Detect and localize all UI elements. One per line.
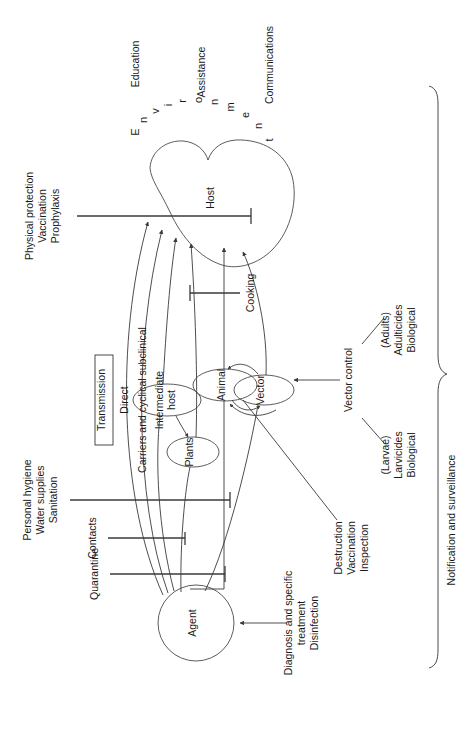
- label-host-protection: Physical protection Vaccination Prophyla…: [23, 172, 61, 260]
- env-letter-6: n: [208, 99, 220, 105]
- label-communications: Communications: [263, 26, 275, 104]
- path-intermediate-host-upper: [163, 238, 176, 384]
- larvae-line-1: Larvicides: [392, 431, 404, 478]
- env-letter-8: e: [239, 112, 251, 118]
- label-quarantine: Quarantine: [88, 548, 100, 600]
- adults-line-1: Adulticides: [392, 305, 404, 356]
- label-surveillance: Notification and surveillance: [445, 454, 457, 585]
- env-letter-3: i: [162, 104, 174, 106]
- bar-cooking: [190, 285, 240, 301]
- bar-contacts: [108, 532, 185, 545]
- env-letter-4: r: [176, 99, 188, 103]
- label-cooking: Cooking: [244, 274, 256, 313]
- node-animal-label: Animal: [215, 369, 227, 401]
- node-plants: Plants: [167, 437, 219, 467]
- label-route-direct: Direct: [118, 386, 130, 414]
- host-protection-line-2: Prophylaxis: [49, 189, 61, 243]
- path-plants-lower: [181, 467, 190, 592]
- animal-control-leader: [243, 400, 337, 520]
- bar-quarantine: [110, 566, 225, 582]
- label-vector-control: Vector control: [342, 348, 354, 412]
- label-sanitation: Personal hygiene Water supplies Sanitati…: [21, 459, 59, 540]
- node-host-label: Host: [204, 187, 216, 209]
- adults-line-2: Biological: [405, 308, 417, 353]
- animal-control-line-2: Inspection: [358, 524, 370, 572]
- label-agent-treatment: Diagnosis and specific treatment Disinfe…: [282, 571, 320, 675]
- label-route-carriers: Carriers and cyclical subclinical: [136, 327, 148, 473]
- path-vector-lower: [205, 405, 258, 591]
- animal-control-line-1: Vaccination: [345, 521, 357, 575]
- animal-control-line-0: Destruction: [332, 521, 344, 574]
- adults-line-0: (Adults): [379, 312, 391, 348]
- chain-of-infection-diagram: Host E n v i r o n m e n t Agent Interme…: [0, 0, 469, 748]
- node-plants-label: Plants: [183, 437, 195, 466]
- bar-host-protection: [77, 208, 251, 224]
- node-agent-label: Agent: [186, 609, 198, 637]
- env-letter-2: v: [149, 108, 161, 114]
- bar-sanitation: [70, 492, 230, 508]
- path-vector-upper: [243, 252, 266, 375]
- larvae-line-2: Biological: [405, 433, 417, 478]
- host-protection-line-1: Vaccination: [36, 189, 48, 243]
- agent-treatment-line-2: Disinfection: [308, 596, 320, 650]
- intermediate-to-plants-arrow: [176, 416, 188, 437]
- label-education: Education: [129, 40, 141, 87]
- larvae-line-0: (Larvae): [379, 435, 391, 474]
- env-letter-10: t: [263, 138, 275, 141]
- node-agent: Agent: [158, 585, 234, 661]
- path-animal-lower: [190, 401, 224, 589]
- sanitation-line-1: Water supplies: [34, 465, 46, 534]
- host-protection-line-0: Physical protection: [23, 172, 35, 260]
- agent-treatment-line-1: treatment: [295, 601, 307, 645]
- label-vector-adults: (Adults) Adulticides Biological: [379, 305, 417, 356]
- sanitation-line-0: Personal hygiene: [21, 459, 33, 540]
- node-intermediate-host-label2: host: [165, 390, 177, 410]
- env-letter-1: n: [137, 117, 149, 123]
- node-host: Host: [150, 140, 294, 267]
- transmission-legend-box: Transmission: [95, 355, 113, 445]
- sanitation-line-2: Sanitation: [47, 476, 59, 523]
- transmission-legend-label: Transmission: [95, 369, 107, 431]
- node-vector-label: Vector: [254, 375, 266, 405]
- label-assistance: Assistance: [195, 46, 207, 97]
- environment-curved-label: E n v i r o n m e n t: [129, 97, 275, 142]
- diagram-canvas: Host E n v i r o n m e n t Agent Interme…: [0, 0, 469, 748]
- env-letter-9: n: [252, 123, 264, 129]
- env-letter-7: m: [224, 102, 236, 111]
- label-vector-larvae: (Larvae) Larvicides Biological: [379, 431, 417, 478]
- label-animal-control: Destruction Vaccination Inspection: [332, 521, 370, 575]
- node-animal: Animal: [193, 369, 257, 401]
- env-letter-0: E: [129, 128, 141, 135]
- path-intermediate-host-lower: [158, 416, 174, 591]
- agent-treatment-line-0: Diagnosis and specific: [282, 571, 294, 675]
